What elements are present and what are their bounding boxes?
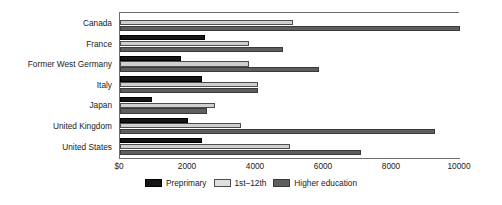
category-label-france: France [0, 34, 112, 55]
bar-secondary [120, 82, 258, 87]
x-tick-label: 10000 [447, 161, 470, 171]
bar-preprimary [120, 76, 202, 81]
bar-higher [120, 47, 283, 52]
bar-secondary [120, 123, 241, 128]
bar-higher [120, 129, 435, 134]
chart-row: Canada [0, 13, 502, 34]
bar-preprimary [120, 138, 202, 143]
legend-item[interactable]: Higher education [273, 178, 357, 188]
legend-swatch-icon [214, 179, 231, 187]
bar-higher [120, 26, 460, 31]
legend-label: 1st–12th [235, 178, 267, 188]
bar-preprimary [120, 35, 205, 40]
x-tick-label: 6000 [314, 161, 332, 171]
bar-preprimary [120, 118, 188, 123]
legend-item[interactable]: Preprimary [145, 178, 207, 188]
x-tick-label: 8000 [382, 161, 400, 171]
bar-higher [120, 88, 258, 93]
legend-swatch-icon [273, 179, 290, 187]
chart-legend: Preprimary1st–12thHigher education [0, 176, 502, 190]
category-label-former-west-germany: Former West Germany [0, 54, 112, 75]
bar-secondary [120, 61, 249, 66]
category-label-united-states: United States [0, 137, 112, 158]
bar-higher [120, 67, 319, 72]
chart-row: Japan [0, 95, 502, 116]
bar-secondary [120, 103, 215, 108]
legend-label: Higher education [294, 178, 357, 188]
category-label-japan: Japan [0, 95, 112, 116]
category-label-united-kingdom: United Kingdom [0, 116, 112, 137]
chart-row: United States [0, 137, 502, 158]
x-tick-label: 4000 [246, 161, 264, 171]
bar-chart: CanadaFranceFormer West GermanyItalyJapa… [0, 0, 502, 205]
chart-row: Italy [0, 75, 502, 96]
x-axis-tick-labels: $0200040006000800010000 [0, 159, 502, 173]
legend-item[interactable]: 1st–12th [214, 178, 267, 188]
bar-secondary [120, 20, 293, 25]
legend-swatch-icon [145, 179, 162, 187]
chart-row: Former West Germany [0, 54, 502, 75]
chart-row: United Kingdom [0, 116, 502, 137]
bar-higher [120, 108, 207, 113]
chart-row: France [0, 34, 502, 55]
category-label-italy: Italy [0, 75, 112, 96]
bar-preprimary [120, 56, 181, 61]
bar-preprimary [120, 97, 152, 102]
bar-secondary [120, 144, 290, 149]
x-tick-label: $0 [114, 161, 123, 171]
x-tick-label: 2000 [178, 161, 196, 171]
category-label-canada: Canada [0, 13, 112, 34]
bar-higher [120, 150, 361, 155]
bar-secondary [120, 41, 249, 46]
legend-label: Preprimary [166, 178, 207, 188]
